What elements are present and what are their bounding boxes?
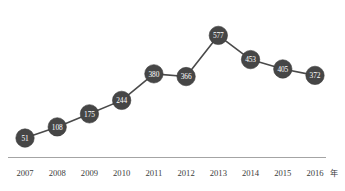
x-axis-tick-label: 2007 — [16, 168, 34, 178]
x-axis-tick-label: 2012 — [178, 168, 195, 178]
data-point-value-label: 175 — [84, 110, 95, 119]
data-point-value-label: 453 — [245, 55, 256, 64]
line-chart: 51108175244380366577453405372 2007200820… — [0, 0, 345, 191]
data-point-value-label: 51 — [21, 134, 29, 143]
data-point-value-label: 108 — [52, 123, 63, 132]
data-point-value-label: 405 — [277, 65, 288, 74]
data-point-markers: 51108175244380366577453405372 — [16, 26, 324, 147]
x-axis-tick-label: 2009 — [81, 168, 98, 178]
data-point-value-label: 372 — [310, 71, 321, 80]
chart-canvas: 51108175244380366577453405372 2007200820… — [0, 0, 345, 191]
x-axis-tick-label: 2008 — [49, 168, 66, 178]
data-point-value-label: 244 — [116, 96, 127, 105]
x-axis-tick-label: 2015 — [274, 168, 291, 178]
data-point-value-label: 577 — [213, 31, 224, 40]
data-point-value-label: 380 — [148, 70, 159, 79]
x-axis-tick-label: 2016 — [306, 168, 324, 178]
x-axis-tick-labels: 2007200820092010201120122013201420152016 — [16, 168, 324, 178]
series-line — [25, 35, 315, 138]
x-axis-tick-label: 2014 — [242, 168, 260, 178]
x-axis-tick-label: 2013 — [210, 168, 227, 178]
x-axis-tick-label: 2010 — [113, 168, 130, 178]
data-point-value-label: 366 — [181, 72, 192, 81]
x-axis-unit-label: 年 — [330, 168, 338, 178]
x-axis-tick-label: 2011 — [145, 168, 162, 178]
